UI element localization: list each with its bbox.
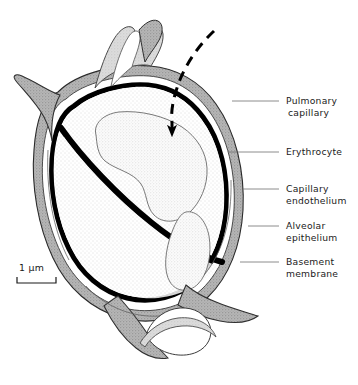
- label-line: epithelium: [286, 232, 338, 243]
- figure-root: Pulmonary capillary Erythrocyte Capillar…: [0, 0, 358, 385]
- scale-bar-label: 1 μm: [19, 262, 44, 273]
- label-line: capillary: [288, 107, 330, 118]
- label-line: Erythrocyte: [286, 146, 342, 157]
- label-basement-membrane: Basement membrane: [286, 256, 338, 279]
- alveolar-capillary-diagram: Pulmonary capillary Erythrocyte Capillar…: [0, 0, 358, 385]
- label-line: Capillary: [286, 183, 329, 194]
- label-line: membrane: [286, 268, 338, 279]
- label-line: Pulmonary: [286, 95, 338, 106]
- label-line: Basement: [286, 256, 335, 267]
- label-erythrocyte: Erythrocyte: [286, 146, 342, 157]
- label-line: endothelium: [286, 195, 347, 206]
- label-line: Alveolar: [286, 220, 326, 231]
